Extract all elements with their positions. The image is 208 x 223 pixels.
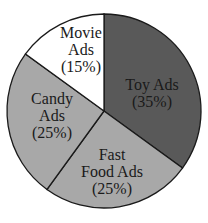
slice-label-toy: Toy Ads (35%) bbox=[125, 76, 179, 111]
svg-text:Movie: Movie bbox=[60, 24, 102, 41]
svg-text:Food Ads: Food Ads bbox=[81, 163, 143, 180]
svg-text:(35%): (35%) bbox=[132, 93, 172, 111]
svg-text:(25%): (25%) bbox=[92, 180, 132, 198]
svg-text:Ads: Ads bbox=[68, 41, 94, 58]
svg-text:Fast: Fast bbox=[99, 146, 126, 163]
svg-text:(25%): (25%) bbox=[32, 124, 72, 142]
pie-chart: Toy Ads (35%) Fast Food Ads (25%) Candy … bbox=[0, 0, 208, 223]
svg-text:Toy Ads: Toy Ads bbox=[125, 76, 179, 94]
svg-text:(15%): (15%) bbox=[61, 58, 101, 76]
svg-text:Candy: Candy bbox=[31, 90, 73, 108]
svg-text:Ads: Ads bbox=[39, 107, 65, 124]
